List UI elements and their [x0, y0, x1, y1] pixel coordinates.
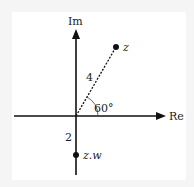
real-axis-label: Re	[169, 110, 184, 123]
real-axis-arrow-icon	[156, 112, 166, 120]
modulus-label-zw: 2	[65, 131, 72, 144]
imaginary-axis-label: Im	[68, 15, 83, 28]
real-axis	[14, 112, 166, 120]
point-z-label: z	[122, 41, 129, 54]
imaginary-axis-arrow-icon	[72, 29, 80, 39]
angle-label: 60°	[94, 102, 114, 115]
argand-diagram: Re Im 60° 4 z 2 z.w	[0, 0, 194, 187]
point-z	[113, 44, 119, 50]
point-zw-label: z.w	[82, 149, 102, 162]
modulus-label-z: 4	[86, 71, 93, 84]
point-zw	[73, 152, 79, 158]
